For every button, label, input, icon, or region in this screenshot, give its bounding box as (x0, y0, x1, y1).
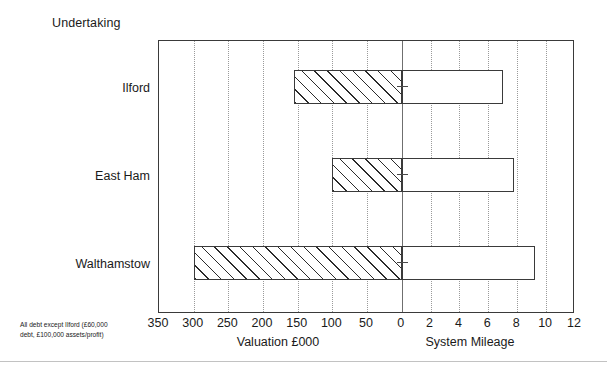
tick-right-2: 2 (426, 316, 433, 330)
tick-left-50: 50 (359, 316, 373, 330)
plot-area (158, 40, 574, 313)
tick-label-group: 350 300 250 200 150 100 50 0 0 2 4 6 8 1… (158, 316, 574, 334)
chart-page: Undertaking Ilford East Ham Walthamstow (0, 0, 607, 379)
tick-left-250: 250 (217, 316, 238, 330)
page-divider (0, 361, 607, 362)
tick-right-8: 8 (513, 316, 520, 330)
bar-row-walthamstow (159, 246, 573, 280)
bar-mileage-ilford[interactable] (402, 70, 503, 104)
tick-right-6: 6 (484, 316, 491, 330)
category-label-group: Ilford East Ham Walthamstow (0, 40, 150, 313)
zero-tick-walthamstow (397, 262, 408, 263)
category-label-ilford: Ilford (122, 81, 150, 95)
chart-title: Undertaking (52, 16, 121, 30)
bar-mileage-east-ham[interactable] (402, 158, 515, 192)
axis-title-system-mileage: System Mileage (426, 335, 515, 349)
tick-left-300: 300 (182, 316, 203, 330)
category-label-east-ham: East Ham (95, 169, 150, 183)
zero-tick-ilford (397, 86, 408, 87)
tick-right-10: 10 (538, 316, 552, 330)
chart-footnote: All debt except Ilford (£60,000 debt, £1… (20, 320, 152, 339)
tick-right-4: 4 (455, 316, 462, 330)
footnote-line-1: All debt except Ilford (£60,000 (20, 320, 152, 330)
zero-tick-east-ham (397, 174, 408, 175)
bar-mileage-walthamstow[interactable] (402, 246, 535, 280)
tick-right-12: 12 (567, 316, 581, 330)
bar-valuation-east-ham[interactable] (332, 158, 401, 192)
category-label-walthamstow: Walthamstow (75, 257, 150, 271)
tick-left-0: 0 (397, 316, 404, 330)
bar-valuation-ilford[interactable] (294, 70, 402, 104)
bar-row-ilford (159, 70, 573, 104)
bar-valuation-walthamstow[interactable] (194, 246, 402, 280)
footnote-line-2: debt, £100,000 assets/profit) (20, 330, 152, 340)
bar-row-east-ham (159, 158, 573, 192)
tick-left-100: 100 (321, 316, 342, 330)
tick-left-150: 150 (286, 316, 307, 330)
axis-title-valuation: Valuation £000 (237, 335, 319, 349)
tick-left-200: 200 (252, 316, 273, 330)
